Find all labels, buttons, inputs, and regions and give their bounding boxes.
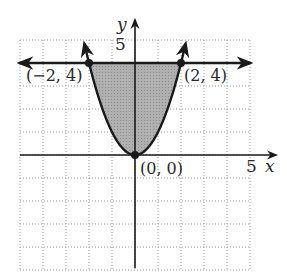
point-origin	[131, 151, 139, 159]
y-tick-label: 5	[115, 34, 126, 54]
point-left	[85, 59, 93, 67]
point-right-label: (2, 4)	[184, 66, 227, 85]
point-left-label: (−2, 4)	[26, 66, 82, 85]
x-axis-label: x	[265, 156, 275, 176]
x-tick-label: 5	[246, 156, 257, 176]
point-origin-label: (0, 0)	[140, 159, 183, 178]
y-axis-label: y	[116, 14, 127, 34]
graph: y 5 5 x (−2, 4) (2, 4) (0, 0)	[0, 0, 287, 272]
